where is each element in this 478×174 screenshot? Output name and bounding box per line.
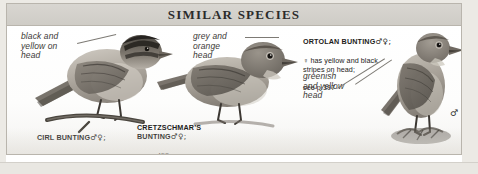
page-bottom-margin [0, 162, 478, 174]
species-name-cretzschmars: CRETZSCHMAR’S BUNTING [137, 123, 201, 141]
species-name-ortolan: ORTOLAN BUNTING [303, 37, 375, 46]
panel-header: SIMILAR SPECIES [7, 4, 461, 26]
annotation-black-yellow-head: black and yellow on head [21, 32, 87, 61]
page-canvas: SIMILAR SPECIES [0, 0, 478, 174]
reference-cirl: see p.399 [37, 152, 69, 154]
caption-cretzschmars-bunting: CRETZSCHMAR’S BUNTING♂♀; see p.453 [137, 114, 237, 154]
illustration-plate: black and yellow on head CIRL BUNTING♂♀;… [7, 26, 461, 154]
page-right-margin [462, 0, 478, 174]
panel-title: SIMILAR SPECIES [168, 7, 301, 23]
male-symbol-ortolan: ♂ [450, 108, 458, 118]
sex-symbols-cretzschmars: ♂♀; [171, 132, 187, 141]
species-name-cirl: CIRL BUNTING [37, 133, 90, 142]
sex-symbols-cirl: ♂♀; [90, 133, 106, 142]
similar-species-panel: SIMILAR SPECIES [6, 3, 462, 155]
sex-symbols-ortolan: ♂♀; [375, 37, 391, 46]
reference-cretzschmars: see p.453 [137, 151, 169, 154]
leader-line-2 [245, 37, 279, 38]
